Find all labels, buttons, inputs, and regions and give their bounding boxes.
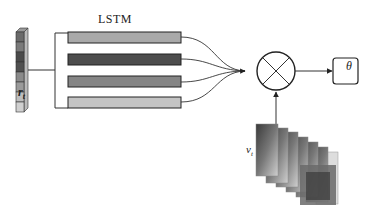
output-theta-label: θ bbox=[339, 59, 359, 74]
video-frames-stack bbox=[256, 124, 338, 205]
video-label: vt bbox=[246, 143, 253, 158]
input-vector-label: rt bbox=[18, 85, 25, 101]
multiply-operator-icon bbox=[257, 52, 295, 90]
lstm-bars bbox=[68, 32, 181, 108]
lstm-label: LSTM bbox=[98, 12, 132, 27]
bracket bbox=[55, 33, 68, 108]
converging-curves bbox=[181, 37, 245, 102]
diagram-canvas bbox=[0, 0, 368, 213]
